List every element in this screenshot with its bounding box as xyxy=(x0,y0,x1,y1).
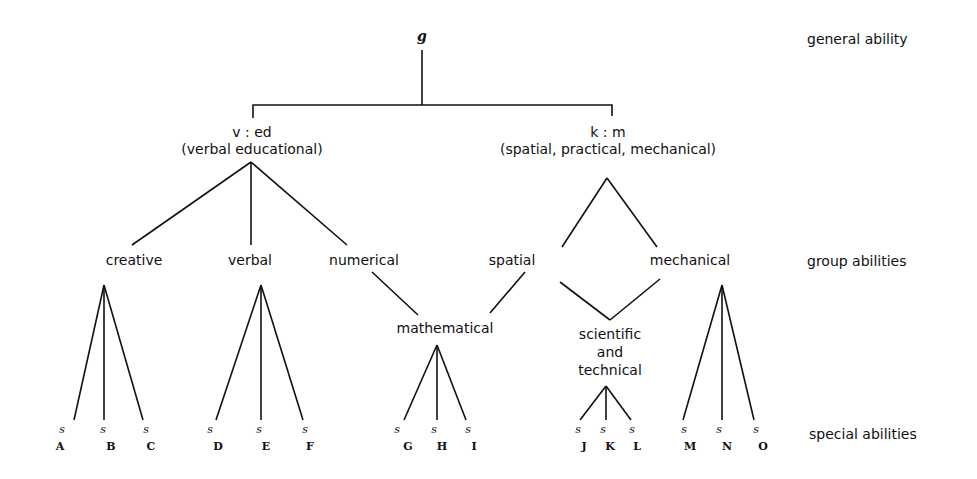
hierarchical-abilities-diagram: g v : ed (verbal educational) k : m (spa… xyxy=(0,0,977,479)
special-sub-l: L xyxy=(633,440,641,453)
special-sub-c: C xyxy=(147,440,156,453)
ved-sublabel: (verbal educational) xyxy=(181,141,322,157)
special-s: s xyxy=(753,423,759,436)
special-sub-m: M xyxy=(684,440,696,453)
connector-lines xyxy=(0,0,977,479)
group-numerical: numerical xyxy=(329,252,399,268)
special-s: s xyxy=(143,423,149,436)
ved-label: v : ed xyxy=(232,124,271,140)
group-scientific-line3: technical xyxy=(578,362,642,378)
special-s: s xyxy=(575,423,581,436)
special-s: s xyxy=(256,423,262,436)
group-spatial: spatial xyxy=(489,252,536,268)
special-s: s xyxy=(100,423,106,436)
group-creative: creative xyxy=(106,252,163,268)
special-sub-g: G xyxy=(403,440,412,453)
group-scientific-line2: and xyxy=(597,344,623,360)
special-s: s xyxy=(629,423,635,436)
group-mathematical: mathematical xyxy=(397,320,494,336)
special-s: s xyxy=(302,423,308,436)
special-s: s xyxy=(394,423,400,436)
group-mechanical: mechanical xyxy=(650,252,730,268)
level-group-label: group abilities xyxy=(807,253,907,269)
km-sublabel: (spatial, practical, mechanical) xyxy=(500,141,716,157)
special-sub-f: F xyxy=(306,440,314,453)
group-verbal: verbal xyxy=(228,252,272,268)
special-sub-j: J xyxy=(581,440,586,453)
special-sub-o: O xyxy=(758,440,768,453)
special-sub-i: I xyxy=(471,440,476,453)
special-s: s xyxy=(431,423,437,436)
special-sub-h: H xyxy=(437,440,447,453)
special-sub-e: E xyxy=(262,440,270,453)
special-s: s xyxy=(207,423,213,436)
special-s: s xyxy=(716,423,722,436)
special-sub-k: K xyxy=(605,440,615,453)
special-s: s xyxy=(465,423,471,436)
special-s: s xyxy=(600,423,606,436)
level-general-label: general ability xyxy=(807,31,908,47)
g-factor-label: g xyxy=(417,28,427,44)
group-scientific-line1: scientific xyxy=(579,326,641,342)
special-sub-a: A xyxy=(56,440,65,453)
level-special-label: special abilities xyxy=(809,426,917,442)
special-sub-n: N xyxy=(722,440,732,453)
special-s: s xyxy=(59,423,65,436)
special-sub-b: B xyxy=(106,440,115,453)
km-label: k : m xyxy=(590,124,625,140)
special-s: s xyxy=(681,423,687,436)
special-sub-d: D xyxy=(213,440,223,453)
